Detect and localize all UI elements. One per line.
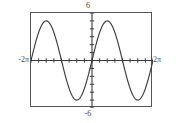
x-max-label: 2π — [153, 55, 176, 64]
y-min-label: -6 — [0, 109, 176, 118]
graph-screenshot: 6 -2π 2π -6 — [0, 0, 176, 123]
x-min-label: -2π — [4, 55, 29, 64]
y-max-label: 6 — [0, 1, 176, 10]
plot-area — [31, 13, 153, 108]
plot-frame — [30, 12, 152, 107]
